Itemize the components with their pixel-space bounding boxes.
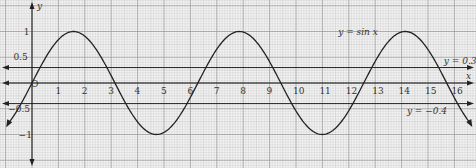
svg-text:y = −0.4: y = −0.4 bbox=[406, 106, 447, 116]
svg-text:8: 8 bbox=[240, 86, 246, 96]
svg-text:3: 3 bbox=[108, 86, 114, 96]
svg-text:12: 12 bbox=[346, 86, 357, 96]
svg-text:10: 10 bbox=[293, 86, 305, 96]
grid-minor bbox=[0, 0, 476, 168]
svg-text:5: 5 bbox=[161, 86, 167, 96]
svg-text:y = sin x: y = sin x bbox=[337, 27, 378, 37]
chart-stage: 1234567891011121314151610.5−0.5−1Oyx y =… bbox=[0, 0, 476, 168]
svg-text:−1: −1 bbox=[19, 130, 32, 140]
svg-text:x: x bbox=[466, 71, 471, 81]
svg-text:2: 2 bbox=[82, 86, 88, 96]
svg-text:13: 13 bbox=[372, 86, 384, 96]
svg-text:7: 7 bbox=[214, 86, 220, 96]
svg-text:0.5: 0.5 bbox=[13, 52, 28, 62]
svg-text:1: 1 bbox=[55, 86, 61, 96]
svg-text:14: 14 bbox=[399, 86, 411, 96]
svg-text:y: y bbox=[36, 1, 43, 11]
svg-text:4: 4 bbox=[135, 86, 141, 96]
svg-text:15: 15 bbox=[425, 86, 437, 96]
svg-text:y = 0.3: y = 0.3 bbox=[443, 56, 476, 66]
svg-text:11: 11 bbox=[319, 86, 330, 96]
svg-text:9: 9 bbox=[267, 86, 273, 96]
sine-graph: 1234567891011121314151610.5−0.5−1Oyx y =… bbox=[0, 0, 476, 168]
svg-text:−0.5: −0.5 bbox=[8, 104, 30, 114]
svg-text:1: 1 bbox=[24, 27, 30, 37]
